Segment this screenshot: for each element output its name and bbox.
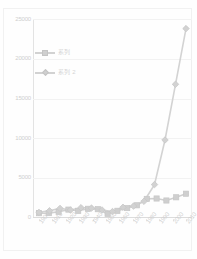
data-point-marker — [172, 81, 179, 88]
data-point-marker — [154, 196, 159, 201]
data-point-marker — [162, 137, 169, 144]
legend-diamond-marker-icon — [35, 69, 55, 76]
legend-label: 系列 2 — [58, 69, 76, 76]
data-point-marker — [164, 198, 169, 203]
y-tick-label: 10000 — [15, 135, 31, 141]
data-point-marker — [174, 195, 179, 200]
legend-label: 系列 — [58, 49, 70, 56]
x-axis-labels: 1900191019201930194019501960197019801990… — [33, 219, 192, 257]
y-tick-label: 15000 — [15, 95, 31, 101]
chart-page: 25000 20000 15000 10000 5000 0 190019101… — [0, 0, 197, 259]
y-tick-label: 20000 — [15, 55, 31, 61]
chart-legend: 系列 系列 2 — [35, 45, 107, 83]
legend-item-series-2: 系列 2 — [35, 67, 76, 78]
legend-square-marker-icon — [35, 49, 55, 56]
legend-item-series-1: 系列 — [35, 47, 70, 58]
data-point-marker — [183, 191, 188, 196]
y-tick-label: 25000 — [15, 16, 31, 22]
y-tick-label: 5000 — [18, 174, 31, 180]
data-point-marker — [183, 25, 190, 32]
y-axis-labels: 25000 20000 15000 10000 5000 0 — [0, 14, 31, 222]
y-tick-label: 0 — [28, 214, 31, 220]
